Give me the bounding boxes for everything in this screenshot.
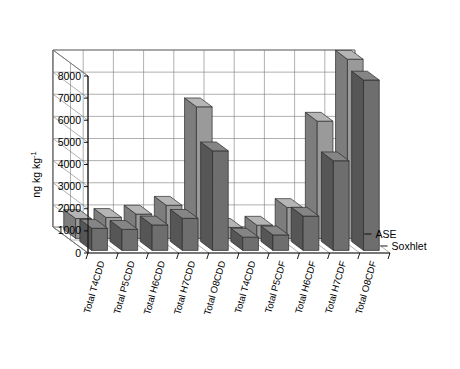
x-axis-category-label: Total T4CDD <box>81 259 107 314</box>
bar-front-face <box>303 216 319 250</box>
y-axis-tick-label: 7000 <box>58 92 82 104</box>
bar-front-face <box>243 237 259 250</box>
x-axis-tick <box>207 253 209 259</box>
x-axis-category-label-text: Total P5CDD <box>111 259 137 315</box>
bar <box>170 209 198 250</box>
bar <box>201 142 229 250</box>
x-axis-tick <box>116 253 118 259</box>
bar-front-face <box>333 161 349 251</box>
y-axis-title-exponent: -1 <box>29 151 38 158</box>
y-axis-tick-label: 2000 <box>58 202 82 214</box>
bar-front-face <box>213 151 229 251</box>
series-label-ase: ASE <box>375 228 396 240</box>
y-axis-tick-label: 8000 <box>58 70 82 82</box>
x-axis-category-label-text: Total H7CDD <box>171 259 197 315</box>
x-axis-category-label: Total H6CDD <box>141 259 167 315</box>
x-axis-tick <box>297 253 299 259</box>
x-axis-category-label-text: Total P5CDF <box>262 259 287 314</box>
series-label-soxhlet: Soxhlet <box>392 240 427 252</box>
bar-side-face <box>201 142 213 250</box>
x-axis-category-label: Total O8CDD <box>201 259 227 316</box>
bar-side-face <box>321 152 333 250</box>
y-axis-tick-label: 1000 <box>58 224 82 236</box>
x-axis-category-label-text: Total O8CDD <box>201 259 227 316</box>
bar-front-face <box>152 225 168 250</box>
bar <box>291 207 319 250</box>
x-axis-tick <box>358 253 360 259</box>
x-axis-category-label: Total P5CDF <box>262 259 287 314</box>
x-axis-tick <box>388 253 390 259</box>
bar-front-face <box>92 228 108 250</box>
x-axis-tick <box>267 253 269 259</box>
x-axis: Total T4CDDTotal P5CDDTotal H6CDDTotal H… <box>81 253 390 316</box>
bar-front-face <box>122 229 138 250</box>
x-axis-tick <box>86 253 88 259</box>
x-axis-category-label-text: Total T4CDD <box>232 259 258 314</box>
bar-side-face <box>352 71 364 250</box>
chart-container: 010002000300040005000600070008000ng kg k… <box>0 0 460 369</box>
x-axis-category-label-text: Total H7CDF <box>323 259 349 314</box>
x-axis-category-label: Total H6CDF <box>292 259 318 314</box>
x-axis-tick <box>328 253 330 259</box>
x-axis-tick <box>237 253 239 259</box>
x-axis-category-label: Total H7CDD <box>171 259 197 315</box>
x-axis-category-label: Total O8CDF <box>353 259 379 315</box>
y-axis-title-unit: kg <box>30 158 42 172</box>
x-axis-tick <box>177 253 179 259</box>
bar-front-face <box>273 235 289 250</box>
bar-chart-3d: 010002000300040005000600070008000ng kg k… <box>0 0 460 369</box>
y-axis-tick-label: 0 <box>75 247 81 259</box>
x-axis-category-label: Total H7CDF <box>323 259 349 314</box>
x-axis-tick <box>146 253 148 259</box>
y-axis-tick-label: 5000 <box>58 136 82 148</box>
x-axis-category-label: Total T4CDD <box>232 259 258 314</box>
bar <box>321 152 349 250</box>
x-axis-category-label-text: Total H6CDD <box>141 259 167 315</box>
bar <box>352 71 380 250</box>
x-axis-category-label-text: Total O8CDF <box>353 259 379 315</box>
y-axis-tick-label: 6000 <box>58 114 82 126</box>
y-axis-tick-label: 3000 <box>58 180 82 192</box>
y-axis-title: ng kg kg-1 <box>29 151 42 197</box>
y-axis-tick-label: 4000 <box>58 158 82 170</box>
bar-front-face <box>364 80 380 250</box>
x-axis-category-label: Total P5CDD <box>111 259 137 315</box>
x-axis-category-label-text: Total T4CDD <box>81 259 107 314</box>
y-axis-title-text: ng kg kg-1 <box>29 151 42 197</box>
x-axis-category-label-text: Total H6CDF <box>292 259 318 314</box>
bar-front-face <box>182 218 198 250</box>
